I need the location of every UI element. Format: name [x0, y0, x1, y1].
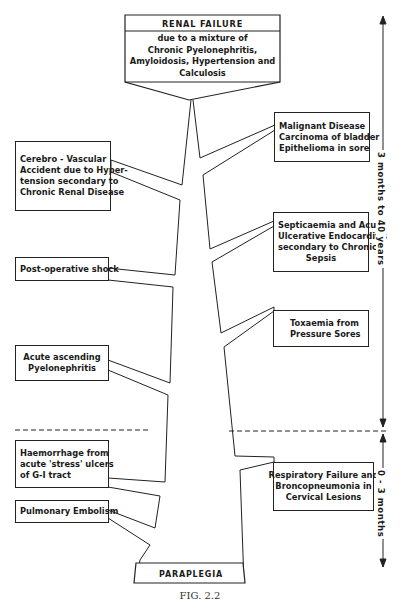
- diagram-stage: RENAL FAILURE due to a mixture of Chroni…: [0, 0, 402, 610]
- pyelonephritis-box: Acute ascending Pyelonephritis: [15, 345, 109, 381]
- cva-box: Cerebro - Vascular Accident due to Hyper…: [15, 141, 111, 211]
- respiratory-failure-box: Respiratory Failure and Broncopneumonia …: [273, 462, 374, 511]
- paraplegia-label: PARAPLEGIA: [136, 570, 246, 579]
- malignant-disease-box: Malignant Disease Carcinoma of bladder E…: [274, 112, 370, 162]
- post-operative-shock-box: Post-operative shock: [15, 257, 109, 281]
- renal-failure-title: RENAL FAILURE: [126, 18, 279, 30]
- renal-failure-description: due to a mixture of Chronic Pyelonephrit…: [126, 33, 279, 79]
- toxaemia-box: Toxaemia from Pressure Sores: [273, 310, 369, 347]
- figure-caption: FIG. 2.2: [150, 590, 250, 601]
- pulmonary-embolism-box: Pulmonary Embolism: [15, 500, 109, 523]
- timeline-upper-label: 3 months to 40 years: [376, 150, 386, 268]
- haemorrhage-box: Haemorrhage from acute 'stress' ulcers o…: [15, 440, 109, 488]
- septicaemia-box: Septicaemia and Acute Ulcerative Endocar…: [273, 212, 369, 272]
- timeline-lower-label: 0 - 3 months: [376, 468, 386, 539]
